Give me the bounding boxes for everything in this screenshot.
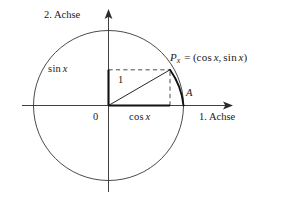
cos-argument-2: x [214, 51, 219, 63]
sin-leg-label: sinx [48, 64, 67, 75]
sin-function-name-2: sin [223, 51, 237, 63]
comma-separator: , [219, 51, 222, 63]
radius-length-label: 1 [118, 75, 123, 86]
equals-glyph: = [184, 51, 190, 63]
horizontal-axis-label: 1. Achse [199, 112, 235, 123]
cos-leg-label: cosx [129, 112, 150, 123]
point-name: P [170, 51, 177, 63]
cos-argument: x [145, 111, 150, 122]
point-equation-label: Px =(cosx,sinx) [170, 52, 247, 65]
arc-endpoint-label: A [186, 88, 192, 99]
open-paren: ( [193, 51, 197, 63]
vertical-axis-label: 2. Achse [44, 10, 80, 21]
cos-function-name-2: cos [197, 51, 213, 63]
sin-argument: x [63, 63, 68, 74]
equals-sign [180, 51, 181, 63]
unit-circle-canvas [0, 0, 281, 206]
cos-function-name: cos [129, 111, 144, 122]
origin-label: 0 [93, 112, 98, 123]
sin-function-name: sin [48, 63, 61, 74]
unit-circle-figure: 2. Achse 1. Achse 0 1 A sinx cosx Px =(c… [0, 0, 281, 206]
close-paren: ) [243, 51, 247, 63]
